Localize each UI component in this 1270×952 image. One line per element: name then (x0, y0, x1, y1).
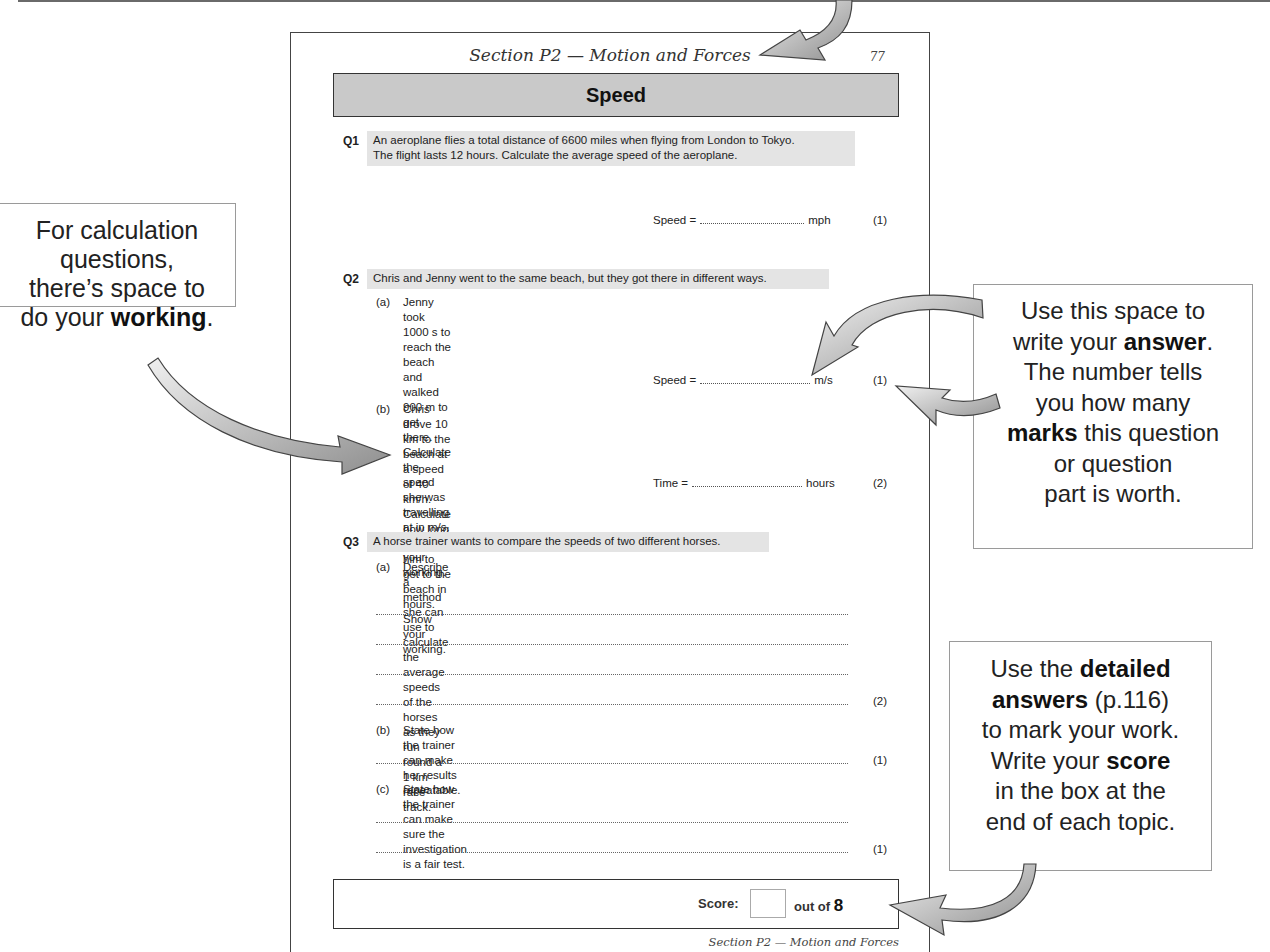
callout-working: For calculation questions, there’s space… (0, 203, 236, 307)
marks-indicator: (1) (873, 842, 887, 857)
score-total: 8 (834, 896, 843, 915)
answer-writing-line[interactable] (376, 644, 848, 645)
worksheet-page: Section P2 — Motion and Forces 77 Speed … (290, 32, 930, 952)
topic-title: Speed (333, 73, 899, 117)
score-input[interactable] (750, 889, 786, 918)
answer-line-time[interactable]: Time =hours (653, 476, 835, 491)
top-rule (18, 0, 1270, 2)
part-label: (c) (376, 782, 389, 797)
question-number: Q1 (343, 134, 359, 149)
running-head: Section P2 — Motion and Forces (291, 45, 929, 65)
part-label: (a) (376, 295, 390, 310)
question-number: Q3 (343, 535, 359, 550)
part-label: (b) (376, 723, 390, 738)
marks-indicator: (2) (873, 476, 887, 491)
answer-writing-line[interactable] (376, 704, 848, 705)
question-number: Q2 (343, 272, 359, 287)
score-box: Score: out of 8 (333, 879, 899, 929)
marks-indicator: (1) (873, 213, 887, 228)
answer-writing-line[interactable] (376, 614, 848, 615)
answer-writing-line[interactable] (376, 763, 848, 764)
answer-writing-line[interactable] (376, 674, 848, 675)
part-label: (b) (376, 402, 390, 417)
marks-indicator: (1) (873, 753, 887, 768)
marks-indicator: (2) (873, 694, 887, 709)
answer-writing-line[interactable] (376, 822, 848, 823)
question-stem: Chris and Jenny went to the same beach, … (367, 269, 829, 289)
callout-answer: Use this space to write your answer. The… (973, 284, 1253, 549)
question-stem: A horse trainer wants to compare the spe… (367, 532, 769, 552)
answer-line-speed[interactable]: Speed =m/s (653, 373, 833, 388)
question-stem: An aeroplane flies a total distance of 6… (367, 131, 855, 166)
marks-indicator: (1) (873, 373, 887, 388)
part-label: (a) (376, 560, 390, 575)
callout-score: Use the detailed answers (p.116) to mark… (949, 641, 1212, 871)
answer-writing-line[interactable] (376, 852, 848, 853)
part-text: State how the trainer can make sure the … (403, 782, 467, 872)
page-number: 77 (870, 50, 885, 64)
score-label: Score: (698, 896, 738, 911)
answer-line-speed[interactable]: Speed =mph (653, 213, 831, 228)
running-foot: Section P2 — Motion and Forces (709, 935, 899, 949)
score-out-of: out of 8 (794, 896, 843, 916)
